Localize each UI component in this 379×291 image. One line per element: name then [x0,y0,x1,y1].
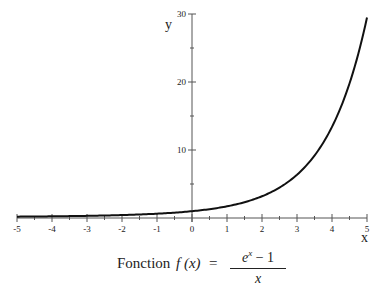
x-tick-label: 2 [260,224,265,234]
x-tick-label: -5 [13,224,21,234]
y-tick-label: 20 [177,77,187,87]
x-tick-label: 4 [330,224,335,234]
y-tick-label: 30 [177,9,187,19]
caption-numerator: ex − 1 [228,244,288,267]
x-tick-label: -3 [83,224,91,234]
x-tick-label: -2 [118,224,126,234]
fraction-bar [230,268,286,269]
x-tick-label: 0 [190,224,195,234]
chart-caption: Fonction f (x) = ex − 1 x [0,244,379,288]
x-tick-label: -1 [153,224,161,234]
y-axis-label: y [165,17,172,32]
x-axis-label: x [361,230,368,244]
caption-function-name: f (x) [176,255,201,272]
caption-denominator: x [228,270,288,288]
axes [17,14,367,222]
caption-fraction: ex − 1 x [228,244,288,288]
caption-word: Fonction [117,255,170,272]
x-tick-label: 3 [295,224,300,234]
y-tick-label: 10 [177,145,187,155]
x-tick-label: -4 [48,224,56,234]
x-tick-label: 1 [225,224,230,234]
numerator-rest: − 1 [252,250,274,265]
caption-equals: = [209,255,217,272]
function-plot: -5-4-3-2-1012345102030 x y [0,0,379,244]
